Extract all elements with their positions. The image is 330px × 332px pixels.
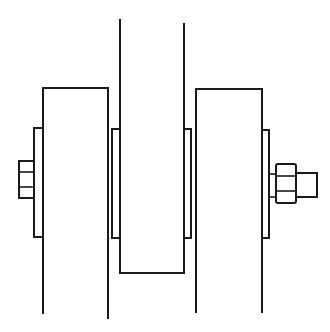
right-plate bbox=[196, 89, 262, 312]
center-plate bbox=[120, 20, 184, 273]
nut bbox=[269, 164, 296, 203]
assembly-diagram bbox=[0, 0, 330, 332]
left-inner-washer bbox=[112, 129, 120, 238]
right-inner-washer bbox=[184, 129, 191, 238]
bolt-head bbox=[19, 161, 34, 198]
right-outer-washer bbox=[262, 130, 269, 238]
bolt-end bbox=[296, 173, 317, 197]
left-outer-washer bbox=[34, 128, 43, 237]
diagram-svg bbox=[0, 0, 330, 332]
left-plate bbox=[43, 88, 108, 318]
